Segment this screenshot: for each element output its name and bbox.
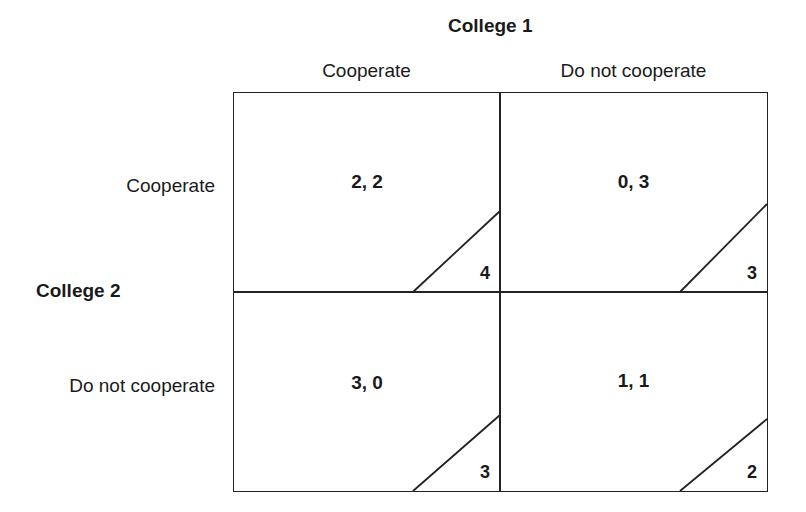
cell-do-not-cooperate-do-not-cooperate: 1, 1 2 [499, 291, 768, 492]
payoff-value: 1, 1 [500, 370, 767, 392]
payoff-value: 2, 2 [234, 171, 500, 193]
total-payoff: 3 [747, 263, 757, 284]
college-2-label: College 2 [36, 280, 120, 302]
row-strategy-do-not-cooperate: Do not cooperate [0, 375, 215, 397]
payoff-matrix: 2, 2 4 0, 3 3 3, 0 3 1, 1 2 [233, 92, 768, 492]
college-1-label: College 1 [448, 15, 532, 37]
column-strategy-cooperate: Cooperate [233, 60, 500, 82]
cell-cooperate-cooperate: 2, 2 4 [233, 92, 501, 293]
payoff-value: 0, 3 [500, 171, 767, 193]
row-strategy-cooperate: Cooperate [0, 175, 215, 197]
total-payoff: 3 [480, 462, 490, 483]
column-strategy-do-not-cooperate: Do not cooperate [500, 60, 767, 82]
total-payoff: 2 [747, 462, 757, 483]
cell-do-not-cooperate-cooperate: 3, 0 3 [233, 291, 501, 492]
cell-cooperate-do-not-cooperate: 0, 3 3 [499, 92, 768, 293]
payoff-value: 3, 0 [234, 372, 500, 394]
total-payoff: 4 [480, 263, 490, 284]
